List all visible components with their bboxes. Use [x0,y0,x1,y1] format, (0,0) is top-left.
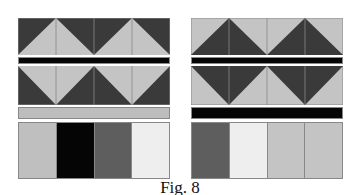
separator-bar [191,57,343,64]
color-strip [95,123,133,178]
separator-bar [191,107,343,119]
separator-bar [18,107,170,119]
color-strip [132,123,169,178]
color-strip [192,123,230,178]
right-quilt-panel [191,18,343,179]
color-strip [305,123,342,178]
triangle-row-down [191,66,343,105]
color-strip [19,123,57,178]
triangle-row-down [18,66,170,105]
color-strip [230,123,268,178]
color-strip [268,123,306,178]
color-strips [191,122,343,179]
triangle-row-up [18,18,170,55]
separator-bar [18,57,170,64]
figure-caption: Fig. 8 [150,178,210,195]
triangle-row-up [191,18,343,55]
color-strip [57,123,95,178]
color-strips [18,122,170,179]
left-quilt-panel [18,18,170,179]
